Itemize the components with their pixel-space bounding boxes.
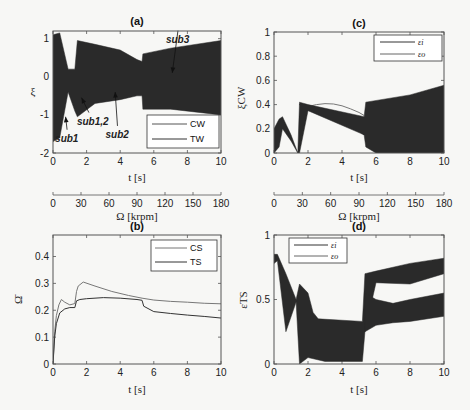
panel-c: (c) 024681000.20.40.60.81030609012015018… xyxy=(235,17,453,222)
panel-a-xlabel: t [s] xyxy=(128,171,145,183)
svg-text:150: 150 xyxy=(407,198,424,209)
panel-c-legend: εi εo xyxy=(374,35,442,61)
svg-text:4: 4 xyxy=(339,367,345,378)
svg-text:120: 120 xyxy=(379,198,396,209)
svg-text:0.4: 0.4 xyxy=(35,251,49,262)
legend-d-eps-i: εi xyxy=(331,241,336,250)
panel-d-plot-area: 024681000.51 xyxy=(256,230,450,379)
panel-b-legend: CS TS xyxy=(151,240,217,271)
svg-text:90: 90 xyxy=(131,198,143,209)
svg-text:0: 0 xyxy=(43,71,49,82)
svg-text:0.3: 0.3 xyxy=(35,278,49,289)
svg-text:8: 8 xyxy=(407,367,413,378)
svg-text:10: 10 xyxy=(215,367,227,378)
panel-d-title: (d) xyxy=(352,220,366,232)
svg-text:180: 180 xyxy=(213,198,230,209)
svg-text:0.8: 0.8 xyxy=(256,51,270,62)
svg-text:4: 4 xyxy=(117,156,123,167)
svg-text:0: 0 xyxy=(264,148,270,159)
svg-text:0.4: 0.4 xyxy=(256,99,270,110)
svg-text:1: 1 xyxy=(264,27,270,38)
svg-text:0.2: 0.2 xyxy=(256,123,270,134)
legend-eps-o: εo xyxy=(418,50,425,59)
svg-text:0: 0 xyxy=(50,198,56,209)
svg-text:10: 10 xyxy=(215,156,227,167)
panel-b-xlabel: t [s] xyxy=(128,383,145,395)
svg-text:30: 30 xyxy=(75,198,87,209)
svg-text:0: 0 xyxy=(271,198,277,209)
svg-text:6: 6 xyxy=(373,156,379,167)
panel-d-xlabel: t [s] xyxy=(350,383,367,395)
svg-text:2: 2 xyxy=(305,367,311,378)
svg-text:1: 1 xyxy=(264,230,270,241)
legend-eps-i: εi xyxy=(418,38,423,47)
svg-text:0.6: 0.6 xyxy=(256,75,270,86)
svg-text:0: 0 xyxy=(50,367,56,378)
svg-text:180: 180 xyxy=(436,198,453,209)
svg-text:0.1: 0.1 xyxy=(35,332,49,343)
annotation-sub2: sub2 xyxy=(105,129,129,140)
svg-text:10: 10 xyxy=(438,367,450,378)
svg-text:0.2: 0.2 xyxy=(35,305,49,316)
svg-text:2: 2 xyxy=(84,367,90,378)
svg-text:120: 120 xyxy=(157,198,174,209)
svg-text:6: 6 xyxy=(151,156,157,167)
svg-text:4: 4 xyxy=(339,156,345,167)
svg-text:8: 8 xyxy=(185,367,191,378)
legend-cs: CS xyxy=(190,243,203,253)
panel-b-title: (b) xyxy=(130,220,144,232)
svg-text:0: 0 xyxy=(50,156,56,167)
svg-text:2: 2 xyxy=(84,156,90,167)
svg-text:8: 8 xyxy=(185,156,191,167)
svg-text:2: 2 xyxy=(305,156,311,167)
svg-text:0: 0 xyxy=(271,367,277,378)
svg-text:60: 60 xyxy=(103,198,115,209)
svg-text:0: 0 xyxy=(271,156,277,167)
panel-d-ylabel: εTS xyxy=(237,291,249,308)
svg-text:60: 60 xyxy=(325,198,337,209)
annotation-sub1-2: sub1,2 xyxy=(77,116,109,127)
panel-a-ylabel: ξ xyxy=(31,85,36,98)
svg-text:10: 10 xyxy=(438,156,450,167)
annotation-sub3: sub3 xyxy=(166,34,190,45)
legend-ts: TS xyxy=(190,257,202,267)
svg-text:-2: -2 xyxy=(40,148,49,159)
panel-d-legend: εi εo xyxy=(289,238,347,263)
annotation-sub1: sub1 xyxy=(55,133,79,144)
svg-text:30: 30 xyxy=(297,198,309,209)
svg-text:1: 1 xyxy=(43,33,49,44)
panel-d: (d) 024681000.51 t [s] εTS εi εo xyxy=(237,220,450,395)
panel-b: (b) 024681000.10.20.30.4 t [s] Ω̄ CS TS xyxy=(12,220,227,395)
legend-cw: CW xyxy=(190,119,205,129)
svg-text:4: 4 xyxy=(117,367,123,378)
svg-text:0.5: 0.5 xyxy=(256,294,270,305)
legend-tw: TW xyxy=(190,134,204,144)
panel-c-title: (c) xyxy=(352,17,366,29)
panel-a-title: (a) xyxy=(130,15,144,27)
figure: (a) 0246810-2-1010306090120150180sub1sub… xyxy=(0,0,470,410)
svg-text:0: 0 xyxy=(264,359,270,370)
panel-b-ylabel: Ω̄ xyxy=(12,294,24,304)
svg-text:6: 6 xyxy=(151,367,157,378)
legend-d-eps-o: εo xyxy=(331,252,338,261)
panel-c-xlabel: t [s] xyxy=(350,171,367,183)
svg-text:-1: -1 xyxy=(40,109,49,120)
panel-a: (a) 0246810-2-1010306090120150180sub1sub… xyxy=(31,15,230,222)
svg-text:8: 8 xyxy=(407,156,413,167)
svg-text:150: 150 xyxy=(185,198,202,209)
svg-text:90: 90 xyxy=(353,198,365,209)
svg-text:0: 0 xyxy=(43,359,49,370)
panel-a-legend: CW TW xyxy=(147,115,219,148)
panel-c-ylabel: ξCW xyxy=(235,86,248,109)
svg-text:6: 6 xyxy=(373,367,379,378)
